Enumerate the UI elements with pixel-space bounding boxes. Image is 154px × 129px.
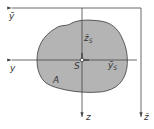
z-axis-label: z	[85, 112, 91, 122]
z-bar-axis-label: z̄	[143, 112, 149, 122]
centroid-label: S	[74, 61, 80, 71]
centroid-point	[80, 58, 84, 62]
y-bar-axis-label: ȳ	[8, 11, 15, 21]
centroid-diagram: ȳ z̄S S ȳS y A z z̄	[0, 0, 154, 129]
area-label: A	[52, 75, 59, 85]
y-axis-label: y	[9, 63, 16, 73]
